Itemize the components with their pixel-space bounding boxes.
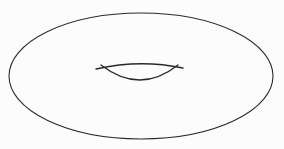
torus-diagram <box>0 0 284 149</box>
torus-figure: Line drawing of a torus: a large flat el… <box>0 0 284 149</box>
figure-background <box>0 0 284 149</box>
